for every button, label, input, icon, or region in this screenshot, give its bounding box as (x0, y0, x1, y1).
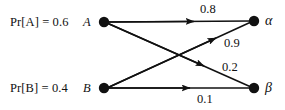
edge-a-to-alpha-arrow (107, 21, 194, 22)
edge-weight-b-to-beta: 0.1 (197, 93, 213, 106)
edge-weight-a-to-beta: 0.2 (222, 61, 238, 74)
probability-label-b: Pr[B] = 0.4 (10, 82, 68, 95)
probability-graph-diagram: Pr[A] = 0.6 Pr[B] = 0.4 A B α β 0.8 0.9 … (0, 0, 285, 110)
node-label-beta: β (265, 81, 272, 95)
probability-label-a: Pr[A] = 0.6 (10, 16, 69, 29)
node-alpha-dot (249, 16, 259, 26)
node-label-b: B (83, 82, 91, 95)
node-b-dot (99, 83, 109, 93)
node-a-dot (99, 17, 109, 27)
edge-a-to-beta-arrow (107, 23, 204, 66)
node-label-a: A (83, 16, 91, 29)
node-beta-dot (249, 83, 259, 93)
edge-weight-a-to-alpha: 0.8 (200, 3, 216, 16)
node-label-alpha: α (265, 14, 272, 28)
edge-b-to-alpha-arrow (107, 38, 216, 88)
edge-weight-b-to-alpha: 0.9 (224, 37, 240, 50)
edge-group (107, 21, 251, 88)
